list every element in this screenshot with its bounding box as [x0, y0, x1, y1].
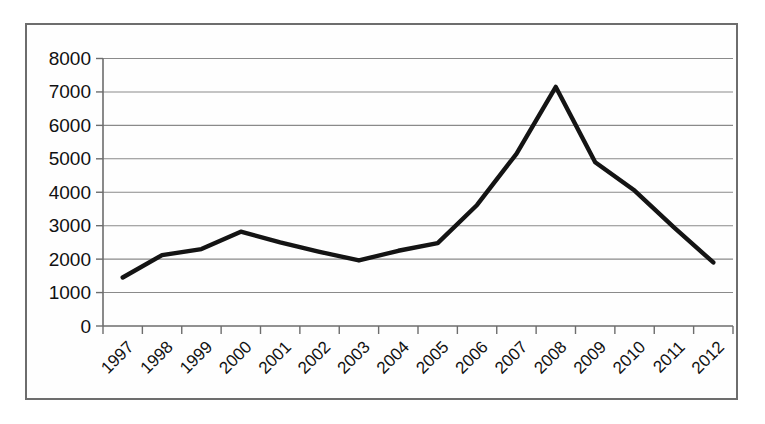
chart-screenshot: 010002000300040005000600070008000 199719… [0, 0, 765, 424]
x-tick-label: 2010 [609, 337, 649, 377]
x-tick-label: 2012 [688, 337, 728, 377]
y-tick-label: 0 [80, 316, 91, 337]
x-tick-label: 2005 [412, 337, 452, 377]
x-tick-label: 2001 [255, 337, 295, 377]
y-axis-tickmarks [96, 59, 103, 327]
x-axis-tickmarks [103, 326, 733, 334]
y-tick-label: 3000 [49, 215, 91, 236]
y-tick-label: 8000 [49, 48, 91, 69]
x-tick-label: 2004 [373, 337, 413, 377]
y-tick-label: 7000 [49, 81, 91, 102]
x-tick-label: 2000 [215, 337, 255, 377]
x-tick-label: 1998 [137, 337, 177, 377]
y-tick-label: 1000 [49, 282, 91, 303]
gridlines [103, 59, 733, 293]
line-chart: 010002000300040005000600070008000 199719… [0, 0, 765, 424]
y-tick-label: 5000 [49, 148, 91, 169]
x-tick-label: 2009 [570, 337, 610, 377]
x-tick-label: 2007 [491, 337, 531, 377]
x-tick-label: 2003 [334, 337, 374, 377]
y-tick-label: 6000 [49, 115, 91, 136]
x-tick-label: 1999 [176, 337, 216, 377]
x-tick-label: 2006 [452, 337, 492, 377]
data-series-line [123, 87, 714, 278]
x-axis-tick-labels: 1997199819992000200120022003200420052006… [97, 337, 728, 377]
x-tick-label: 2002 [294, 337, 334, 377]
y-tick-label: 2000 [49, 249, 91, 270]
y-axis-tick-labels: 010002000300040005000600070008000 [49, 48, 91, 337]
x-tick-label: 2011 [649, 337, 688, 376]
x-tick-label: 2008 [530, 337, 570, 377]
x-tick-label: 1997 [97, 337, 137, 377]
y-tick-label: 4000 [49, 182, 91, 203]
